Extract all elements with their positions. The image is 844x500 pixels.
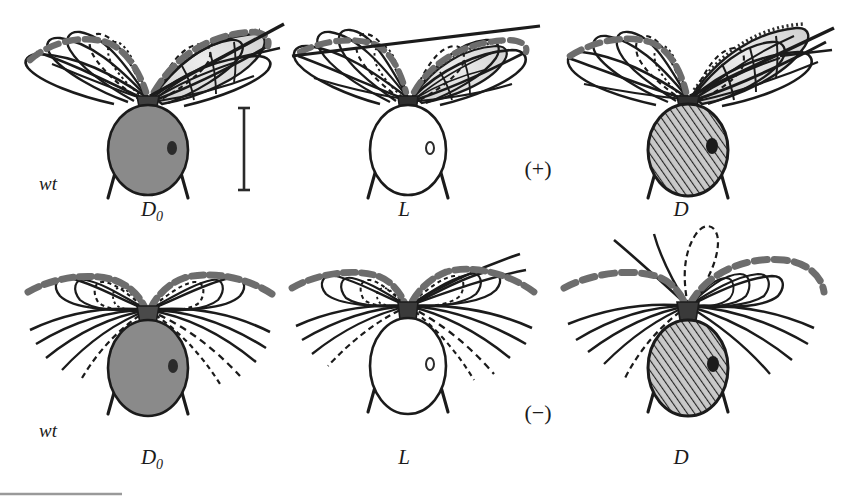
- genotype-letter: D: [140, 197, 156, 221]
- genotype-label-bottom-2: L: [397, 445, 410, 469]
- phase-marker-plus: (+): [524, 156, 551, 181]
- spiracle-marking: [168, 359, 178, 373]
- side-label-wt-top: wt: [39, 173, 58, 194]
- genotype-label-bottom-3: D: [672, 445, 688, 469]
- genotype-subscript: 0: [156, 209, 163, 224]
- wing-kinematics-figure: wt D0 L D wt D0 L D (+) (−): [0, 0, 844, 500]
- spiracle-marking: [167, 141, 177, 155]
- side-label-wt-bottom: wt: [39, 420, 58, 441]
- spiracle-marking: [706, 138, 718, 154]
- phase-marker-minus: (−): [524, 400, 551, 425]
- genotype-letter: D: [140, 445, 156, 469]
- figure-root: wt D0 L D wt D0 L D (+) (−): [0, 0, 844, 500]
- genotype-label-top-2: L: [397, 197, 410, 221]
- spiracle-marking: [707, 356, 719, 372]
- thorax: [677, 302, 699, 320]
- genotype-subscript: 0: [156, 457, 163, 472]
- genotype-label-top-3: D: [672, 197, 688, 221]
